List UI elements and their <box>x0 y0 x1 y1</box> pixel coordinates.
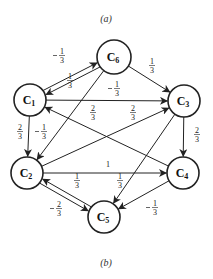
svg-text:1: 1 <box>68 72 72 81</box>
node-c1: C1 <box>14 84 46 116</box>
svg-text:1: 1 <box>115 80 119 89</box>
node-c4: C4 <box>167 157 199 189</box>
svg-text:2: 2 <box>195 126 199 135</box>
edge-weight-c4-c1: 23 <box>90 104 96 122</box>
svg-text:3: 3 <box>150 66 154 75</box>
svg-text:2: 2 <box>18 123 22 132</box>
svg-text:3: 3 <box>91 113 95 122</box>
svg-text:3: 3 <box>42 132 46 141</box>
svg-text:3: 3 <box>118 181 122 190</box>
edge-c2-to-c5 <box>40 183 89 211</box>
svg-text:1: 1 <box>42 123 46 132</box>
edge-c6-to-c1 <box>46 67 100 95</box>
edge-weight-c4-c5: 13 <box>146 199 158 217</box>
edge-weight-c6-c3: 13 <box>149 57 155 75</box>
node-c2: C2 <box>11 157 43 189</box>
caption-bottom: (b) <box>100 257 112 269</box>
edge-c1-to-c2 <box>28 116 30 157</box>
edge-weight-c5-c2: 23 <box>50 200 62 218</box>
edge-weight-c1-c2: 23 <box>17 123 23 141</box>
svg-text:3: 3 <box>195 135 199 144</box>
svg-text:2: 2 <box>57 200 61 209</box>
edge-weight-c1-c3: 13 <box>108 80 120 98</box>
edge-c3-to-c4 <box>183 117 184 157</box>
node-c3: C3 <box>168 85 200 117</box>
svg-text:3: 3 <box>153 208 157 217</box>
node-c5: C5 <box>88 201 120 233</box>
edge-weight-c6-c2: 13 <box>35 123 47 141</box>
edge-weight-c3-c5: 13 <box>117 172 123 190</box>
svg-text:3: 3 <box>18 132 22 141</box>
svg-text:1: 1 <box>118 172 122 181</box>
svg-text:3: 3 <box>75 181 79 190</box>
edge-weight-c1-c6: 13 <box>53 47 65 65</box>
edge-weight-c2-c5: 13 <box>74 172 80 190</box>
edge-c5-to-c2 <box>43 179 92 207</box>
svg-text:2: 2 <box>131 104 135 113</box>
edge-weight-c2-c4: 1 <box>106 160 110 169</box>
node-c6: C6 <box>97 40 131 74</box>
svg-text:1: 1 <box>150 57 154 66</box>
edge-c1-to-c3 <box>46 100 168 101</box>
edge-weight-c3-c4: 23 <box>194 126 200 144</box>
directed-graph-diagram: (a) 131313132313232323113132313 C6C1C3C2… <box>0 0 213 279</box>
svg-text:3: 3 <box>115 89 119 98</box>
caption-top: (a) <box>100 13 112 25</box>
svg-text:3: 3 <box>57 209 61 218</box>
edge-c3-to-c5 <box>113 114 175 203</box>
svg-text:3: 3 <box>131 113 135 122</box>
svg-text:3: 3 <box>60 56 64 65</box>
svg-text:1: 1 <box>106 160 110 169</box>
edges-layer <box>28 63 184 211</box>
svg-text:1: 1 <box>153 199 157 208</box>
svg-text:1: 1 <box>60 47 64 56</box>
edge-weight-c2-c3: 23 <box>130 104 136 122</box>
svg-text:3: 3 <box>68 81 72 90</box>
svg-text:1: 1 <box>75 172 79 181</box>
svg-text:2: 2 <box>91 104 95 113</box>
